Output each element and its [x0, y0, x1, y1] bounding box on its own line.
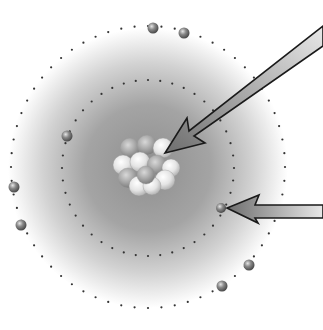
orbit-dot — [41, 255, 43, 257]
orbit-dot — [82, 109, 84, 111]
orbit-dot — [100, 241, 102, 243]
atom-diagram-canvas — [0, 0, 323, 330]
nucleon — [137, 166, 155, 184]
orbit-dot — [183, 87, 185, 89]
orbit-dot — [199, 36, 201, 38]
orbit-dot — [234, 275, 236, 277]
orbit-dot — [13, 193, 15, 195]
orbit-dot — [41, 76, 43, 78]
orbit-dot — [11, 180, 13, 182]
electron — [62, 131, 73, 142]
orbit-dot — [268, 232, 270, 234]
orbit-dot — [281, 193, 283, 195]
orbit-dot — [33, 244, 35, 246]
orbit-dot — [135, 254, 137, 256]
orbit-dot — [50, 66, 52, 68]
orbit-dot — [147, 255, 149, 257]
orbit-dot — [64, 192, 66, 194]
orbit-dot — [203, 100, 205, 102]
orbit-dot — [171, 82, 173, 84]
orbit-dot — [135, 80, 137, 82]
orbit-dot — [100, 93, 102, 95]
orbit-dot — [91, 233, 93, 235]
orbit-dot — [223, 49, 225, 51]
orbit-dot — [183, 247, 185, 249]
orbit-dot — [219, 119, 221, 121]
orbit-dot — [253, 255, 255, 257]
orbit-dot — [82, 225, 84, 227]
orbit-dot — [61, 167, 63, 169]
orbit-dot — [26, 232, 28, 234]
orbit-dot — [133, 306, 135, 308]
orbit-dot — [20, 112, 22, 114]
orbit-dot — [64, 142, 66, 144]
orbit-dot — [123, 82, 125, 84]
orbit-dot — [174, 304, 176, 306]
electron — [16, 220, 27, 231]
orbit-dot — [283, 152, 285, 154]
orbit-dot — [10, 166, 12, 168]
orbit-dot — [111, 87, 113, 89]
orbit-dot — [229, 192, 231, 194]
orbit-dot — [120, 28, 122, 30]
orbit-dot — [94, 36, 96, 38]
orbit-dot — [147, 79, 149, 81]
orbit-dot — [219, 214, 221, 216]
orbit-dot — [133, 26, 135, 28]
orbit-dot — [284, 166, 286, 168]
orbit-dot — [273, 220, 275, 222]
orbit-dot — [187, 301, 189, 303]
orbit-dot — [60, 275, 62, 277]
orbit-dot — [159, 80, 161, 82]
orbit-dot — [268, 99, 270, 101]
orbit-dot — [261, 244, 263, 246]
orbit-dot — [82, 290, 84, 292]
electron — [148, 23, 159, 34]
orbit-dot — [281, 138, 283, 140]
electron — [244, 260, 255, 271]
orbit-dot — [111, 247, 113, 249]
orbit-dot — [234, 57, 236, 59]
orbit-dot — [174, 28, 176, 30]
orbit-dot — [283, 180, 285, 182]
orbit-dot — [211, 290, 213, 292]
electron — [9, 182, 20, 193]
orbit-dot — [160, 26, 162, 28]
orbit-dot — [278, 125, 280, 127]
orbit-dot — [71, 283, 73, 285]
orbit-dot — [159, 254, 161, 256]
orbit-dot — [107, 301, 109, 303]
electron — [216, 203, 226, 213]
orbit-dot — [75, 214, 77, 216]
electron — [179, 28, 190, 39]
orbit-dot — [253, 76, 255, 78]
orbit-dot — [244, 66, 246, 68]
orbit-dot — [225, 130, 227, 132]
orbit-dot — [273, 112, 275, 114]
atom-diagram — [0, 0, 323, 330]
orbit-dot — [60, 57, 62, 59]
orbit-dot — [120, 304, 122, 306]
orbit-dot — [94, 296, 96, 298]
orbit-dot — [69, 203, 71, 205]
orbit-dot — [62, 179, 64, 181]
orbit-dot — [203, 233, 205, 235]
orbit-dot — [211, 42, 213, 44]
orbit-dot — [26, 99, 28, 101]
orbit-dot — [193, 93, 195, 95]
orbit-dot — [11, 152, 13, 154]
orbit-dot — [13, 138, 15, 140]
orbit-dot — [107, 31, 109, 33]
orbit-dot — [193, 241, 195, 243]
orbit-dot — [212, 225, 214, 227]
orbit-dot — [123, 251, 125, 253]
orbit-dot — [147, 307, 149, 309]
orbit-dot — [160, 306, 162, 308]
orbit-dot — [233, 167, 235, 169]
orbit-dot — [171, 251, 173, 253]
orbit-dot — [16, 207, 18, 209]
orbit-dot — [62, 154, 64, 156]
orbit-dot — [33, 88, 35, 90]
orbit-dot — [91, 100, 93, 102]
orbit-dot — [232, 179, 234, 181]
